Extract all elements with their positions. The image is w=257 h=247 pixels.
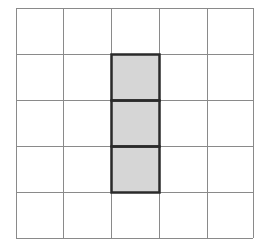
grid-diagram	[0, 0, 257, 247]
shaded-cell	[111, 146, 159, 192]
shaded-cell	[111, 100, 159, 146]
shaded-cell	[111, 54, 159, 100]
